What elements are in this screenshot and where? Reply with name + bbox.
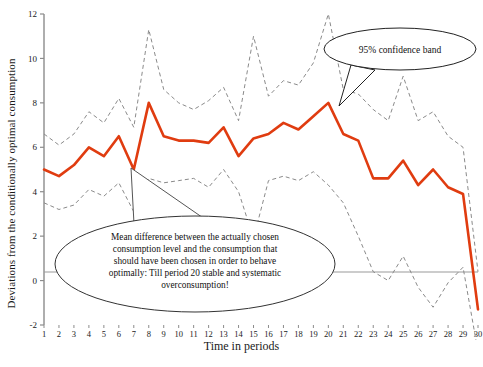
confidence-callout-label: 95% confidence band <box>359 45 442 55</box>
mean-difference-callout: Mean difference between the actually cho… <box>55 168 335 312</box>
x-axis-ticks: 1234567891011121314151617181920212223242… <box>42 325 482 339</box>
x-tick-label: 29 <box>459 329 468 339</box>
y-tick-label: 4 <box>33 187 38 197</box>
x-tick-label: 13 <box>219 329 228 339</box>
chart-figure: Deviations from the conditionally optima… <box>0 0 483 367</box>
x-tick-label: 2 <box>57 329 61 339</box>
x-tick-label: 6 <box>117 329 121 339</box>
y-tick-label: 2 <box>33 231 38 241</box>
x-axis-title: Time in periods <box>0 339 483 354</box>
y-tick-label: -2 <box>30 320 38 330</box>
mean-callout-line: optimally: Till period 20 stable and sys… <box>109 268 282 278</box>
y-axis-ticks: -2024681012 <box>28 9 44 330</box>
x-tick-label: 11 <box>190 329 198 339</box>
x-tick-label: 28 <box>444 329 453 339</box>
x-tick-label: 3 <box>72 329 76 339</box>
x-tick-label: 24 <box>384 329 393 339</box>
x-tick-label: 16 <box>264 329 273 339</box>
y-tick-label: 12 <box>28 9 37 19</box>
x-tick-label: 5 <box>102 329 106 339</box>
x-tick-label: 27 <box>429 329 438 339</box>
mean-callout-line: overconsumption! <box>161 280 229 290</box>
x-tick-label: 7 <box>132 329 136 339</box>
x-tick-label: 19 <box>309 329 318 339</box>
x-tick-label: 1 <box>42 329 46 339</box>
confidence-callout-pointer <box>339 65 375 106</box>
x-tick-label: 15 <box>249 329 258 339</box>
x-tick-label: 14 <box>234 329 243 339</box>
x-tick-label: 21 <box>339 329 348 339</box>
mean-callout-line: consumption level and the consumption th… <box>113 244 278 254</box>
x-tick-label: 4 <box>87 329 92 339</box>
y-tick-label: 8 <box>33 98 38 108</box>
x-tick-label: 20 <box>324 329 333 339</box>
x-tick-label: 22 <box>354 329 363 339</box>
x-tick-label: 17 <box>279 329 288 339</box>
x-tick-label: 23 <box>369 329 378 339</box>
x-tick-label: 9 <box>162 329 166 339</box>
x-tick-label: 26 <box>414 329 423 339</box>
y-tick-label: 0 <box>33 276 38 286</box>
x-tick-label: 18 <box>294 329 303 339</box>
mean-callout-line: Mean difference between the actually cho… <box>111 232 279 242</box>
x-tick-label: 12 <box>204 329 213 339</box>
mean-callout-line: should have been chosen in order to beha… <box>114 256 276 266</box>
y-tick-label: 10 <box>28 54 38 64</box>
plot-area: -2024681012 1234567891011121314151617181… <box>0 0 483 340</box>
confidence-band-callout: 95% confidence band <box>324 28 476 106</box>
y-tick-label: 6 <box>33 142 38 152</box>
x-tick-label: 10 <box>174 329 183 339</box>
x-tick-label: 8 <box>147 329 151 339</box>
x-tick-label: 25 <box>399 329 408 339</box>
